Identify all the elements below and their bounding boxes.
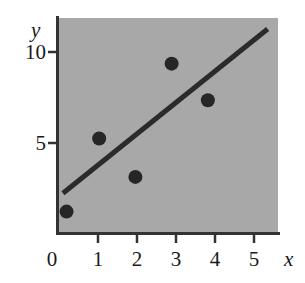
y-tick-label-10: 10 — [14, 42, 46, 63]
data-point — [201, 93, 215, 107]
x-tick-label-1: 1 — [93, 249, 104, 270]
x-axis-label: x — [284, 249, 293, 270]
x-tick-label-4: 4 — [210, 249, 221, 270]
data-point — [92, 132, 106, 146]
x-tick-label-2: 2 — [132, 249, 143, 270]
y-tick-label-5: 5 — [14, 133, 46, 154]
data-point — [60, 205, 74, 219]
x-tick-label-3: 3 — [171, 249, 182, 270]
data-point — [128, 170, 142, 184]
data-point — [165, 57, 179, 71]
x-tick-label-5: 5 — [249, 249, 260, 270]
scatter-plot-figure: y x 10 5 0 1 2 3 4 5 — [0, 0, 305, 283]
y-axis-label: y — [31, 20, 40, 41]
x-tick-label-0: 0 — [47, 249, 58, 270]
